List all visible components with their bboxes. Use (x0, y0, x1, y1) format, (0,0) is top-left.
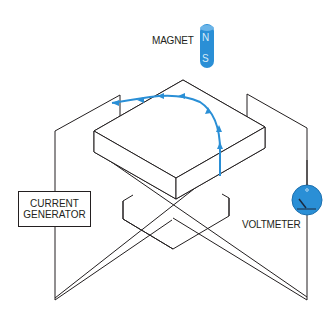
current-generator-box: CURRENT GENERATOR (18, 191, 91, 227)
diagram-canvas (0, 0, 336, 315)
voltmeter-label: VOLTMETER (242, 219, 301, 230)
current-generator-label-line1: CURRENT (19, 198, 90, 209)
magnet-label: MAGNET (152, 35, 194, 46)
magnet-north-label: N (202, 32, 209, 43)
current-generator-label-line2: GENERATOR (19, 209, 90, 220)
magnet-south-label: S (202, 53, 208, 64)
lower-contact (123, 194, 229, 249)
voltmeter-icon (292, 185, 322, 215)
